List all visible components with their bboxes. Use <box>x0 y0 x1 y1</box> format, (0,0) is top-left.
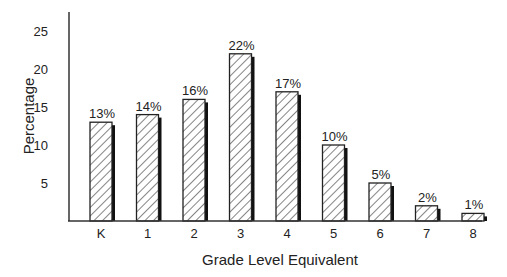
data-label: 1% <box>465 197 484 212</box>
x-tick-label: 2 <box>190 226 197 241</box>
x-tick-labels: K12345678 <box>97 226 477 241</box>
y-axis-title: Percentage <box>20 78 37 155</box>
x-tick-label: 6 <box>376 226 383 241</box>
y-tick-label: 5 <box>41 176 48 191</box>
data-label: 13% <box>89 106 115 121</box>
x-tick-label: 1 <box>144 226 151 241</box>
x-tick-label: 7 <box>423 226 430 241</box>
bar-3: 22% <box>228 38 254 221</box>
bar-2: 16% <box>182 83 208 221</box>
bar-6: 5% <box>369 167 394 221</box>
bars-group: 13%14%16%22%17%10%5%2%1% <box>89 38 487 221</box>
bar-chart: 13%14%16%22%17%10%5%2%1% 510152025 K1234… <box>0 0 507 277</box>
bar-1: 14% <box>135 99 161 221</box>
data-label: 5% <box>372 167 391 182</box>
x-tick-label: 4 <box>283 226 290 241</box>
data-label: 14% <box>135 99 161 114</box>
data-label: 16% <box>182 83 208 98</box>
bar-5: 10% <box>321 129 347 221</box>
bar-8: 1% <box>462 197 487 221</box>
data-label: 17% <box>275 76 301 91</box>
bar-7: 2% <box>416 190 441 221</box>
bar-K: 13% <box>89 106 115 221</box>
y-tick-label: 25 <box>34 24 48 39</box>
data-label: 2% <box>418 190 437 205</box>
bar-4: 17% <box>275 76 301 221</box>
y-tick-label: 20 <box>34 62 48 77</box>
x-tick-label: 8 <box>469 226 476 241</box>
x-tick-label: 5 <box>330 226 337 241</box>
data-label: 10% <box>321 129 347 144</box>
x-tick-label: 3 <box>237 226 244 241</box>
x-axis-title: Grade Level Equivalent <box>202 251 359 268</box>
data-label: 22% <box>228 38 254 53</box>
x-tick-label: K <box>97 226 106 241</box>
